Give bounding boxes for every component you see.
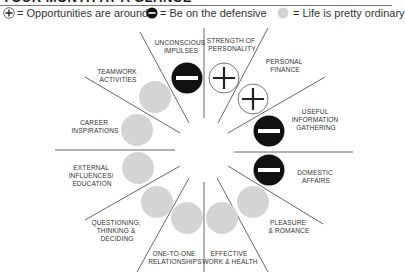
label-questioning-thinking-deciding: QUESTIONING, THINKING & DECIDING bbox=[91, 219, 142, 242]
label-external-influences-education: EXTERNAL INFLUENCES/ EDUCATION bbox=[69, 164, 116, 187]
useful-information-gathering-marker bbox=[254, 116, 285, 147]
teamwork-activities-marker bbox=[139, 81, 171, 113]
label-one-to-one-relationships: ONE-TO-ONE RELATIONSHIPS bbox=[148, 250, 202, 265]
effective-work-health-marker bbox=[206, 202, 238, 234]
label-effective-work-health: EFFECTIVE WORK & HEALTH bbox=[202, 250, 258, 265]
label-unconscious-impulses: UNCONSCIOUS IMPULSES bbox=[155, 39, 208, 54]
unconscious-impulses-marker bbox=[172, 63, 203, 94]
minus-icon bbox=[258, 168, 280, 172]
label-teamwork-activities: TEAMWORK ACTIVITIES bbox=[97, 68, 139, 83]
career-inspirations-marker bbox=[121, 114, 153, 146]
label-useful-information-gathering: USEFUL INFORMATION GATHERING bbox=[292, 108, 341, 131]
label-strength-of-personality: STRENGTH OF PERSONALITY bbox=[207, 37, 257, 52]
one-to-one-relationships-marker bbox=[171, 202, 203, 234]
questioning-thinking-deciding-marker bbox=[141, 186, 173, 218]
label-personal-finance: PERSONAL FINANCE bbox=[266, 58, 304, 73]
label-career-inspirations: CAREER INSPIRATIONS bbox=[71, 119, 119, 134]
pleasure-romance-marker bbox=[237, 186, 269, 218]
minus-icon bbox=[176, 76, 198, 80]
label-domestic-affairs: DOMESTIC AFFAIRS bbox=[297, 169, 335, 184]
label-pleasure-romance: PLEASURE & ROMANCE bbox=[269, 219, 310, 234]
domestic-affairs-marker bbox=[254, 155, 285, 186]
external-influences-education-marker bbox=[122, 152, 154, 184]
personal-finance-marker bbox=[238, 84, 268, 114]
minus-icon bbox=[258, 129, 280, 133]
strength-of-personality-marker bbox=[209, 63, 239, 93]
